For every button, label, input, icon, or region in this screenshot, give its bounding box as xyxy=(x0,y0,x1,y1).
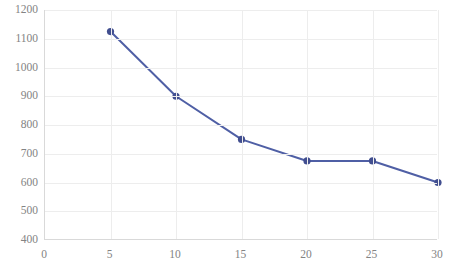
x-tick-label: 5 xyxy=(95,249,125,261)
x-axis-tick-labels: 051015202530 xyxy=(0,0,449,280)
x-tick-label: 20 xyxy=(291,249,321,261)
x-tick-label: 0 xyxy=(29,249,59,261)
x-tick-label: 10 xyxy=(160,249,190,261)
x-tick-label: 15 xyxy=(226,249,256,261)
x-tick-label: 25 xyxy=(357,249,387,261)
x-tick-label: 30 xyxy=(422,249,449,261)
line-chart: 400500600700800900100011001200 051015202… xyxy=(0,0,449,280)
